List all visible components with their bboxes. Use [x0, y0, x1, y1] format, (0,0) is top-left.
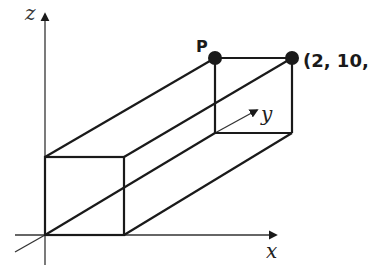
edge-bottom-left	[45, 133, 215, 235]
front-face	[45, 157, 124, 235]
point-corner-label: (2, 10,	[303, 50, 369, 71]
box-diagram: z y x P (2, 10,	[0, 0, 370, 270]
z-axis-label: z	[24, 1, 36, 25]
y-axis-label: y	[260, 102, 273, 126]
edge-bottom-right	[124, 133, 292, 235]
y-axis	[215, 110, 257, 133]
x-axis-label: x	[266, 239, 277, 263]
y-axis-back	[15, 235, 45, 252]
point-p-label: P	[196, 37, 208, 56]
box	[45, 58, 292, 235]
edge-top-left	[45, 58, 215, 157]
point-corner	[285, 51, 299, 65]
axes	[15, 14, 276, 265]
point-p	[208, 51, 222, 65]
